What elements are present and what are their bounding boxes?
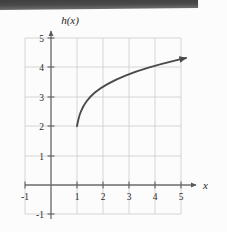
x-tick-label: 2 [101,192,106,202]
axis-lines [25,31,196,219]
y-tick-label: 5 [39,34,44,44]
graph-figure: -1 1 2 3 4 5 5 4 3 2 1 -1 h(x) x [0,0,227,232]
x-tick-label: 3 [127,192,132,202]
y-tick-label: 3 [39,93,44,103]
x-tick-label: -1 [21,192,29,202]
x-axis-label: x [202,179,208,191]
coordinate-plane: -1 1 2 3 4 5 5 4 3 2 1 -1 h(x) x [0,0,227,232]
y-tick-label: 2 [39,122,44,132]
y-tick-labels: 5 4 3 2 1 -1 [36,34,44,220]
y-tick-label: 4 [39,63,44,73]
y-tick-label: 1 [39,152,44,162]
x-tick-label: 5 [179,192,184,202]
x-tick-label: 1 [75,192,80,202]
x-tick-label: 4 [153,192,158,202]
y-tick-label: -1 [36,210,44,220]
function-curve [77,58,186,126]
y-axis-label: h(x) [61,14,79,27]
x-tick-labels: -1 1 2 3 4 5 [21,192,184,202]
